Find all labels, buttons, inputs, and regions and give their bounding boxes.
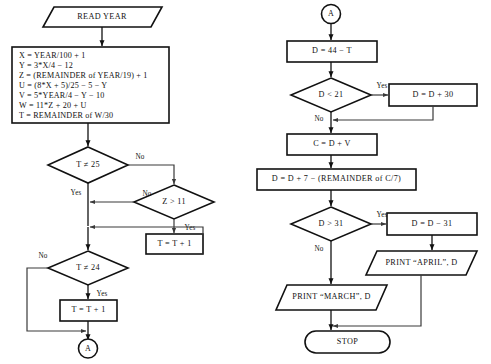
formula-line-5: V = 5*YEAR/4 − Y − 10: [19, 91, 105, 100]
read-year-io-shape[interactable]: READ YEAR: [43, 7, 162, 27]
connector-a-in[interactable]: A: [322, 5, 341, 24]
process-tplus1-upper-label: T = T + 1: [157, 239, 191, 248]
process-d-equals-44-minus-t[interactable]: D = 44 − T: [287, 41, 377, 62]
print-march-label: PRINT “MARCH”, D: [292, 292, 370, 301]
label-z11-no: No: [142, 190, 151, 198]
formula-line-1: X = YEAR/100 + 1: [19, 51, 85, 60]
formula-line-2: Y = 3*X/4 − 12: [19, 61, 73, 70]
formula-line-6: W = 11*Z + 20 + U: [19, 101, 86, 110]
process-c-equals-d-plus-v[interactable]: C = D + V: [287, 134, 377, 155]
connector-a-out[interactable]: A: [79, 339, 98, 358]
process-t-plus-1-lower[interactable]: T = T + 1: [60, 300, 117, 321]
formula-line-7: T = REMAINDER of W/30: [19, 111, 113, 120]
terminal-stop[interactable]: STOP: [305, 331, 390, 353]
connector-t25-no-to-z11: [128, 165, 174, 184]
formula-line-3: Z = (REMAINDER of YEAR/19) + 1: [19, 71, 148, 80]
process-cdv-label: C = D + V: [313, 139, 351, 148]
flowchart-canvas: READ YEAR X = YEAR/100 + 1 Y = 3*X/4 − 1…: [0, 0, 491, 364]
print-april-label: PRINT “APRIL”, D: [385, 258, 457, 267]
process-d-plus-30[interactable]: D = D + 30: [389, 84, 477, 106]
decision-d-lt-21[interactable]: D < 21: [291, 78, 371, 112]
process-dminus31-label: D = D − 31: [412, 219, 453, 228]
decision-t25-label: T ≠ 25: [76, 160, 100, 169]
connector-a-out-label: A: [85, 344, 91, 353]
process-t-plus-1-upper[interactable]: T = T + 1: [146, 234, 203, 254]
io-print-march[interactable]: PRINT “MARCH”, D: [276, 285, 387, 310]
label-d21-no: No: [314, 115, 323, 123]
connector-a-in-label: A: [328, 9, 334, 18]
label-d31-yes: Yes: [376, 211, 387, 219]
io-print-april[interactable]: PRINT “APRIL”, D: [366, 251, 477, 275]
label-d31-no: No: [314, 245, 323, 253]
read-year-label: READ YEAR: [77, 12, 127, 21]
label-t24-yes: Yes: [96, 290, 107, 298]
label-d21-yes: Yes: [376, 82, 387, 90]
decision-d-gt-31[interactable]: D > 31: [291, 207, 371, 241]
decision-d21-label: D < 21: [319, 90, 344, 99]
label-t24-no: No: [38, 252, 47, 260]
connector-dplus30-return: [333, 106, 433, 120]
label-t25-no: No: [135, 153, 144, 161]
process-d44-label: D = 44 − T: [312, 46, 352, 55]
process-d-minus-31[interactable]: D = D − 31: [387, 213, 477, 235]
decision-t-not-24[interactable]: T ≠ 24: [48, 251, 128, 285]
label-z11-yes: Yes: [184, 224, 195, 232]
decision-z11-label: Z > 11: [162, 197, 186, 206]
flowchart-page: READ YEAR X = YEAR/100 + 1 Y = 3*X/4 − 1…: [0, 0, 491, 364]
decision-d31-label: D > 31: [319, 219, 344, 228]
decision-t24-label: T ≠ 24: [76, 263, 100, 272]
formula-process-box[interactable]: X = YEAR/100 + 1 Y = 3*X/4 − 12 Z = (REM…: [12, 47, 169, 123]
process-tplus1-lower-label: T = T + 1: [71, 305, 105, 314]
process-dplus30-label: D = D + 30: [413, 90, 454, 99]
decision-t-not-25[interactable]: T ≠ 25: [48, 147, 128, 183]
process-d-plus-7-remainder[interactable]: D = D + 7 − (REMAINDER of C/7): [257, 169, 416, 190]
formula-line-4: U = (8*X + 5)/25 − 5 − Y: [19, 81, 107, 90]
process-d7-label: D = D + 7 − (REMAINDER of C/7): [272, 174, 401, 183]
stop-label: STOP: [337, 337, 358, 346]
label-t25-yes: Yes: [70, 189, 81, 197]
